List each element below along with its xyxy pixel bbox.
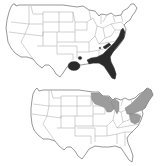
us-map-top [3,2,145,82]
top-range-map [3,2,145,82]
bottom-range-map [29,86,157,164]
range-map-figure [0,0,160,166]
us-map-bottom [29,86,157,164]
